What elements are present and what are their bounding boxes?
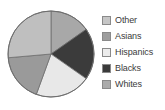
legend-swatch-whites: [102, 80, 111, 89]
pie-chart-svg: [0, 0, 100, 110]
legend-label-whites: Whites: [115, 79, 142, 89]
pie-chart-figure: [0, 0, 100, 110]
legend-swatch-asians: [102, 32, 111, 41]
legend-item-asians[interactable]: Asians: [102, 28, 165, 44]
legend-item-other[interactable]: Other: [102, 12, 165, 28]
legend-item-whites[interactable]: Whites: [102, 76, 165, 92]
pie-slice-other: [8, 11, 51, 58]
legend-item-blacks[interactable]: Blacks: [102, 60, 165, 76]
legend-label-blacks: Blacks: [115, 63, 141, 73]
chart-legend: Other Asians Hispanics Blacks Whites: [102, 12, 165, 100]
legend-swatch-blacks: [102, 64, 111, 73]
legend-swatch-other: [102, 16, 111, 25]
legend-swatch-hispanics: [102, 48, 111, 57]
legend-item-hispanics[interactable]: Hispanics: [102, 44, 165, 60]
legend-label-asians: Asians: [115, 31, 141, 41]
pie-chart-screenshot: Other Asians Hispanics Blacks Whites: [0, 0, 165, 110]
legend-label-hispanics: Hispanics: [115, 47, 153, 57]
legend-label-other: Other: [115, 15, 137, 25]
